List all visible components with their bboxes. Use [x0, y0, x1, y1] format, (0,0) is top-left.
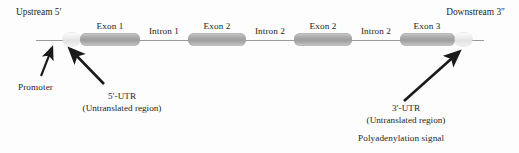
segment-utr3-box	[455, 33, 472, 46]
promoter-callout-label: Promoter	[18, 82, 53, 93]
segment-exon3-box	[400, 33, 455, 46]
segment-exon1-box	[80, 33, 140, 46]
callout-arrows	[0, 0, 519, 153]
promoter-arrow	[41, 48, 52, 76]
utr5-arrow	[70, 49, 104, 84]
utr3-arrow	[404, 52, 459, 101]
downstream-label: Downstream 3″	[446, 7, 505, 17]
segment-intron1-label: Intron 1	[149, 26, 179, 37]
utr3-callout-line2: (Untranslated region)	[367, 115, 446, 127]
utr3-callout-line1: 3′-UTR	[392, 103, 420, 113]
segment-exon2a-label: Exon 2	[204, 21, 231, 32]
segment-exon2b-label: Exon 2	[310, 21, 337, 32]
gene-structure-diagram: Upstream 5′ Downstream 3″ Exon 1 Intron …	[0, 0, 519, 153]
segment-exon2b-box	[294, 33, 352, 46]
segment-intron2a-label: Intron 2	[255, 26, 285, 37]
segment-intron2b-label: Intron 2	[361, 26, 391, 37]
polyadenylation-signal-label: Polyadenylation signal	[358, 133, 444, 144]
segment-exon3-label: Exon 3	[414, 21, 441, 32]
segment-exon2a-box	[188, 33, 246, 46]
utr5-callout: 5′-UTR (Untranslated region)	[83, 91, 162, 114]
utr5-callout-line1: 5′-UTR	[108, 91, 136, 101]
segment-exon1-label: Exon 1	[97, 21, 124, 32]
utr5-callout-line2: (Untranslated region)	[83, 103, 162, 115]
utr3-callout: 3′-UTR (Untranslated region)	[367, 103, 446, 126]
upstream-label: Upstream 5′	[16, 7, 62, 17]
segment-utr5-box	[63, 33, 80, 46]
